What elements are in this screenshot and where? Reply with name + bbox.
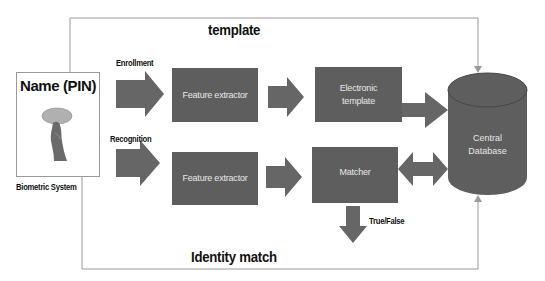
user-identity-card: Name (PIN)	[16, 72, 100, 177]
template-connector-arrowhead	[474, 66, 482, 73]
biometric-system-caption: Biometric System	[16, 182, 77, 192]
central-database-label: Central Database	[448, 132, 527, 158]
electronic-template-label-line2: template	[342, 95, 375, 108]
extractor-to-matcher-arrow	[266, 157, 302, 197]
enrollment-arrow	[116, 71, 164, 117]
feature-extractor-recognition-label: Feature extractor	[182, 172, 247, 185]
recognition-label: Recognition	[110, 134, 151, 144]
identity-match-connector-arrowhead	[474, 195, 482, 202]
electronic-template-label-line1: Electronic	[340, 82, 378, 95]
identity-match-connector-line	[82, 175, 478, 269]
feature-extractor-enrollment-label: Feature extractor	[182, 89, 247, 102]
template-connector-label: template	[208, 21, 260, 38]
matcher-database-double-arrow	[398, 152, 448, 186]
enrollment-label: Enrollment	[116, 58, 153, 68]
matcher-box: Matcher	[312, 147, 398, 203]
identity-match-connector-label: Identity match	[191, 248, 277, 265]
central-database-label-line2: Database	[448, 145, 527, 158]
fingerprint-icon	[17, 73, 99, 176]
matcher-label: Matcher	[339, 166, 370, 179]
true-false-label: True/False	[369, 216, 404, 226]
central-database-label-line1: Central	[448, 132, 527, 145]
feature-extractor-enrollment-box: Feature extractor	[172, 68, 258, 122]
electronic-template-box: Electronic template	[315, 67, 402, 122]
extractor-to-template-arrow	[268, 77, 304, 117]
recognition-arrow	[116, 140, 160, 186]
feature-extractor-recognition-box: Feature extractor	[172, 152, 258, 205]
template-to-database-arrow	[402, 92, 448, 128]
true-false-output-arrow	[339, 206, 367, 243]
